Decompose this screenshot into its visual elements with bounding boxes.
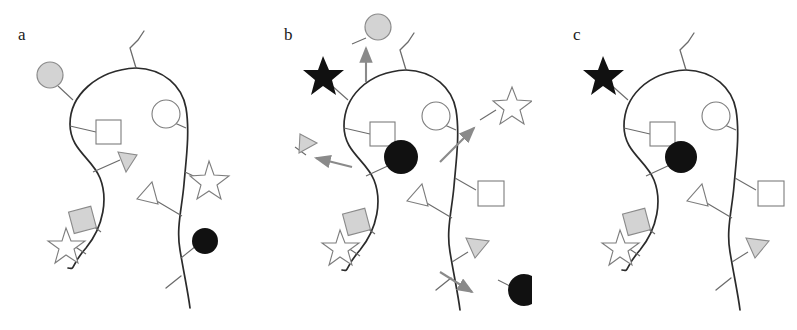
marker-white-circle [422, 102, 450, 130]
marker-white-triangle [407, 184, 428, 206]
connector-gray-triangle [732, 252, 748, 262]
marker-white-square [650, 122, 675, 146]
marker-white-circle [152, 100, 180, 128]
connector-white-square-2 [455, 178, 476, 190]
marker-white-circle [702, 102, 730, 130]
marker-white-square [96, 120, 121, 144]
connector-white-triangle [425, 202, 452, 218]
connector-white-square-2 [735, 178, 756, 190]
bottom-branch [716, 278, 731, 290]
connector-white-square [70, 126, 96, 132]
marker-black-star [583, 56, 624, 95]
connector-white-square [624, 128, 650, 134]
marker-gray-circle [37, 62, 63, 88]
marker-black-circle [384, 140, 418, 174]
marker-gray-square [69, 206, 97, 233]
panel-a-graphic [0, 0, 266, 330]
connector-white-triangle [705, 202, 732, 218]
connector-gray-circle-detached [352, 38, 366, 44]
marker-gray-triangle [299, 134, 317, 153]
panel-b: b [266, 0, 532, 330]
marker-white-square [370, 122, 395, 146]
connector-white-square [344, 128, 370, 134]
connector-gray-circle [58, 86, 73, 100]
bottom-branch [166, 276, 181, 288]
marker-white-square-2 [478, 181, 504, 206]
marker-white-triangle [137, 182, 158, 204]
marker-gray-square [623, 208, 651, 235]
marker-black-circle [665, 141, 697, 173]
panel-c-graphic [531, 0, 797, 330]
marker-white-square-2 [758, 181, 784, 206]
marker-gray-triangle [118, 152, 137, 172]
arrow-left [316, 158, 352, 167]
connector-gray-triangle-2 [452, 252, 468, 262]
marker-black-circle [192, 228, 218, 254]
marker-gray-square [343, 208, 371, 235]
panel-a: a [0, 0, 266, 330]
top-tail [680, 33, 694, 70]
marker-white-star [190, 161, 229, 199]
marker-gray-triangle [746, 238, 769, 258]
top-tail [400, 33, 414, 70]
figure-canvas: a [0, 0, 797, 330]
connector-gray-triangle [93, 160, 120, 172]
top-tail [130, 31, 144, 68]
bottom-branch [436, 278, 451, 290]
marker-white-triangle [687, 184, 708, 206]
panel-b-graphic [266, 0, 532, 330]
connector-black-circle [181, 246, 196, 258]
connector-white-triangle [155, 200, 182, 216]
marker-gray-triangle-2 [466, 238, 489, 258]
connector-white-star-detached [480, 110, 496, 120]
panel-c: c [531, 0, 797, 330]
marker-gray-circle [365, 14, 391, 40]
marker-black-star [303, 56, 344, 95]
marker-black-circle-2 [508, 274, 532, 306]
marker-white-star [493, 87, 532, 124]
connector-black-circle-detached [498, 280, 510, 286]
